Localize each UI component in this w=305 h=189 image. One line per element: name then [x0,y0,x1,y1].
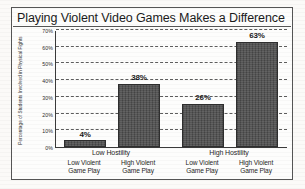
bar [118,84,160,148]
bar-value-label: 26% [195,93,210,102]
scanned-page: Playing Violent Video Games Makes a Diff… [0,0,305,189]
x-axis-category-label: Low ViolentGame Play [56,159,112,176]
bar-value-label: 4% [79,130,90,139]
x-axis-labels: Low HostilityHigh HostilityLow ViolentGa… [55,149,287,180]
bar-series: 4%38%26%63% [56,31,287,147]
bar-value-label: 63% [249,31,264,40]
bar [236,42,278,147]
chart-title: Playing Violent Video Games Makes a Diff… [13,9,291,27]
y-axis-title-text: Percentage of Students Involved in Physi… [18,36,23,144]
gridline [56,29,287,30]
bar [64,140,106,147]
x-axis-category-label-line2: Game Play [56,167,112,175]
bar-slot: 4% [64,31,106,147]
x-axis-category-label-line2: Game Play [174,167,230,175]
x-axis-category-label-line1: Low Violent [56,159,112,167]
y-axis-tick-label: 30% [42,95,53,101]
bar-slot: 26% [182,31,224,147]
y-axis-tick-label: 60% [42,45,53,51]
y-axis-title: Percentage of Students Involved in Physi… [14,28,26,152]
y-axis-tick-label: 40% [42,78,53,84]
x-axis-category-label-line2: Game Play [228,167,284,175]
x-axis-group-label: Low Hostility [63,149,159,156]
x-axis-category-label: Low ViolentGame Play [174,159,230,176]
x-axis-category-label-line1: Low Violent [174,159,230,167]
y-axis-tick-label: 10% [42,128,53,134]
y-axis-tick-label: 50% [42,61,53,67]
bar-value-label: 38% [131,73,146,82]
x-axis-category-label-line2: Game Play [110,167,166,175]
bar-slot: 38% [118,31,160,147]
bar [182,104,224,147]
y-axis-tick-label: 20% [42,112,53,118]
y-axis-tick-label: 70% [42,28,53,34]
plot-area: 0%10%20%30%40%50%60%70% 4%38%26%63% [55,31,287,148]
x-axis-category-label: High ViolentGame Play [110,159,166,176]
y-axis-tick-label: 0% [45,145,53,151]
bar-slot: 63% [236,31,278,147]
x-axis-category-label-line1: High Violent [110,159,166,167]
x-axis-group-label: High Hostility [181,149,277,156]
x-axis-category-label-line1: High Violent [228,159,284,167]
x-axis-category-label: High ViolentGame Play [228,159,284,176]
